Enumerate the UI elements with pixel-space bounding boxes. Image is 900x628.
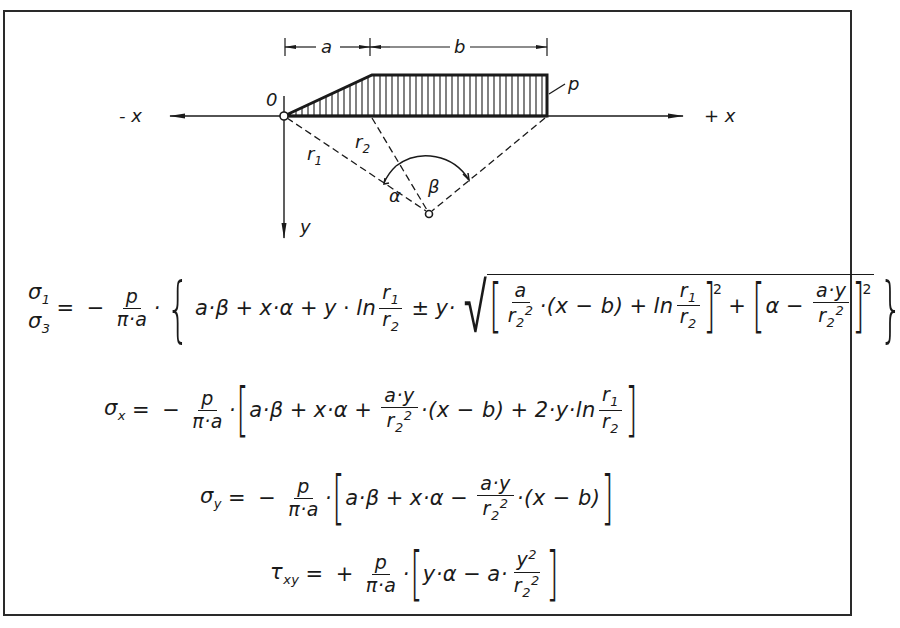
square-root: √ [ ar22 · (x − b) + ln r1r2 ]2 + [ α − …	[456, 273, 874, 343]
r1-label: r1	[307, 143, 322, 168]
lhs-sigma1-sigma3: σ1 σ3	[28, 279, 51, 338]
y-axis-label: y	[299, 216, 311, 237]
equation-sigma1-sigma3: σ1 σ3 = − pπ·a · { a·β + x·α + y · ln r1…	[28, 262, 900, 354]
load-leader	[549, 84, 565, 94]
neg-x-label: - x	[119, 105, 142, 126]
equation-sigma-y: σy = − pπ·a · [ a·β + x·α − a·yr22 · (x …	[200, 458, 614, 538]
lhs-sigma-y: σy	[200, 484, 222, 511]
origin-point	[280, 112, 288, 120]
dimension-a-label: a	[321, 36, 332, 57]
load-p-label: p	[567, 73, 579, 94]
equation-sigma-x: σx = − pπ·a · [ a·β + x·α + a·yr22 · (x …	[104, 370, 638, 450]
trapezoidal-load	[284, 70, 547, 118]
alpha-label: α	[389, 185, 401, 206]
evaluation-point	[426, 211, 433, 218]
origin-label: 0	[266, 89, 277, 110]
lhs-sigma-x: σx	[104, 396, 126, 423]
r2-label: r2	[355, 131, 370, 156]
equation-tau-xy: τxy = + pπ·a · [ y·α − a· y2r22 ]	[270, 538, 559, 610]
pos-x-label: + x	[704, 105, 736, 126]
ray-end	[432, 118, 545, 211]
radius-rays	[287, 118, 545, 211]
dimension-b-label: b	[454, 36, 465, 57]
beta-label: β	[427, 176, 440, 197]
lhs-tau-xy: τxy	[270, 560, 300, 587]
arc-alpha	[384, 166, 396, 183]
